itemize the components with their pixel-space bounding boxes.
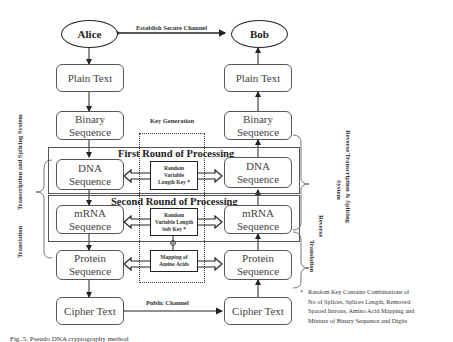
reverse-transcription-label-2: System [336, 180, 343, 200]
sender-plain-text: Plain Text [56, 64, 124, 92]
transcription-splicing-label: Transcription and Splicing System [16, 114, 23, 210]
mapping-of-amino-acids: Mapping of Amino Acids [150, 250, 198, 272]
footnote: * Random Key Contains Combinations of No… [300, 287, 452, 325]
reverse-translation-label-2: Translation [309, 240, 316, 272]
receiver-binary-sequence: BinarySequence [224, 111, 292, 140]
sender-mrna-sequence: mRNASequence [56, 205, 124, 234]
figure-caption: Fig. 5. Pseudo DNA cryptography method [10, 335, 128, 342]
receiver-plain-text: Plain Text [224, 64, 292, 92]
sender-cipher-text: Cipher Text [56, 297, 124, 325]
random-variable-length-key: Random Variable Length Key * [150, 161, 198, 190]
key-generation-title: Key Generation [150, 117, 194, 124]
reverse-transcription-label-1: Reverse Transcription & Splicing [345, 130, 352, 223]
receiver-protein-sequence: ProteinSequence [224, 250, 292, 280]
receiver-dna-sequence: DNASequence [224, 157, 292, 188]
sender-dna-sequence: DNASequence [56, 159, 124, 190]
receiver-mrna-sequence: mRNASequence [224, 205, 292, 234]
public-channel-label: Public Channel [146, 299, 189, 306]
footnote-marker: * [300, 287, 303, 297]
reverse-translation-label-1: Reverse [318, 215, 325, 237]
secure-channel-label: Establish Secure Channel [136, 24, 207, 31]
receiver-cipher-text: Cipher Text [224, 297, 292, 325]
random-variable-length-sub-key: Random Variable Length Sub Key * [150, 208, 198, 236]
alice-node: Alice [61, 20, 118, 48]
sender-binary-sequence: BinarySequence [56, 111, 124, 140]
translation-label: Translation [16, 226, 23, 258]
bob-node: Bob [231, 20, 288, 48]
sender-protein-sequence: ProteinSequence [56, 250, 124, 280]
